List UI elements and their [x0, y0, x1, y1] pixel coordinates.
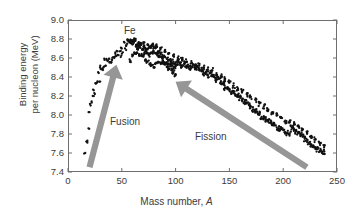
- plot-area: [68, 20, 337, 172]
- y-axis-tick-label: 7.8: [36, 129, 64, 139]
- x-axis-tick-label: 150: [221, 176, 237, 186]
- x-axis-title-text: Mass number,: [140, 196, 206, 207]
- x-axis-title: Mass number, A: [0, 196, 353, 207]
- x-axis-tick-label: 50: [117, 176, 128, 186]
- x-axis-tick-label: 0: [65, 176, 70, 186]
- annotation-fission-label: Fission: [195, 131, 227, 142]
- x-axis-tick-label: 100: [168, 176, 184, 186]
- annotation-fe-label: Fe: [124, 25, 136, 36]
- binding-energy-chart: Binding energy per nucleon (MeV) 7.47.67…: [0, 0, 353, 218]
- y-axis-tick-label: 8.4: [36, 72, 64, 82]
- y-axis-title-line-1: Binding energy: [17, 0, 29, 155]
- y-axis-tick-label: 8.8: [36, 34, 64, 44]
- y-axis-tick-label: 7.6: [36, 148, 64, 158]
- x-axis-tick-label: 200: [275, 176, 291, 186]
- y-axis-tick-label: 8.2: [36, 91, 64, 101]
- x-axis-title-symbol: A: [206, 196, 213, 207]
- y-axis-tick-label: 8.0: [36, 110, 64, 120]
- y-axis-tick-label: 8.6: [36, 53, 64, 63]
- x-axis-tick-label: 250: [329, 176, 345, 186]
- annotation-fusion-label: Fusion: [110, 116, 140, 127]
- x-axis-tick-labels: 050100150200250: [0, 176, 353, 190]
- y-axis-tick-label: 9.0: [36, 15, 64, 25]
